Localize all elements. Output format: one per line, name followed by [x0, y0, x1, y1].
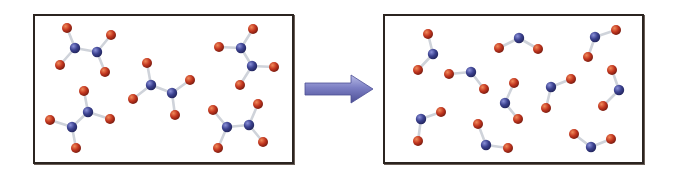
no2-molecule [598, 65, 624, 111]
oxygen-atom [569, 129, 579, 139]
oxygen-atom [473, 119, 483, 129]
oxygen-atom [436, 107, 446, 117]
oxygen-atom [55, 60, 65, 70]
oxygen-atom [253, 99, 263, 109]
nitrogen-atom [83, 107, 93, 117]
oxygen-atom [79, 86, 89, 96]
oxygen-atom [598, 101, 608, 111]
oxygen-atom [71, 143, 81, 153]
oxygen-atom [258, 137, 268, 147]
oxygen-atom [235, 80, 245, 90]
nitrogen-atom [244, 120, 254, 130]
oxygen-atom [541, 103, 551, 113]
oxygen-atom [269, 62, 279, 72]
oxygen-atom [208, 105, 218, 115]
nitrogen-atom [428, 49, 438, 59]
oxygen-atom [105, 114, 115, 124]
oxygen-atom [213, 143, 223, 153]
no2-molecule [413, 29, 438, 75]
oxygen-atom [170, 110, 180, 120]
n2o4-molecules [45, 23, 279, 153]
oxygen-atom [423, 29, 433, 39]
n2o4-molecule [214, 24, 279, 90]
nitrogen-atom [222, 122, 232, 132]
oxygen-atom [128, 94, 138, 104]
nitrogen-atom [247, 61, 257, 71]
no2-molecule [413, 107, 446, 146]
oxygen-atom [106, 30, 116, 40]
oxygen-atom [214, 42, 224, 52]
oxygen-atom [509, 78, 519, 88]
oxygen-atom [185, 75, 195, 85]
nitrogen-atom [500, 98, 510, 108]
oxygen-atom [142, 58, 152, 68]
no2-molecule [473, 119, 513, 153]
no2-molecule [444, 67, 489, 94]
reaction-diagram [0, 0, 677, 173]
nitrogen-atom [614, 85, 624, 95]
nitrogen-atom [514, 33, 524, 43]
no2-molecule [500, 78, 523, 124]
no2-molecule [583, 25, 621, 62]
oxygen-atom [513, 114, 523, 124]
no2-molecule [541, 74, 576, 113]
oxygen-atom [566, 74, 576, 84]
n2o4-molecule [128, 58, 195, 120]
oxygen-atom [503, 143, 513, 153]
oxygen-atom [45, 115, 55, 125]
nitrogen-atom [546, 82, 556, 92]
oxygen-atom [606, 134, 616, 144]
n2o4-molecule [55, 23, 116, 77]
oxygen-atom [100, 67, 110, 77]
nitrogen-atom [70, 43, 80, 53]
n2o4-molecule [208, 99, 268, 153]
oxygen-atom [479, 84, 489, 94]
molecule-canvas [0, 0, 677, 173]
oxygen-atom [413, 136, 423, 146]
oxygen-atom [583, 52, 593, 62]
oxygen-atom [494, 43, 504, 53]
oxygen-atom [607, 65, 617, 75]
nitrogen-atom [466, 67, 476, 77]
oxygen-atom [62, 23, 72, 33]
nitrogen-atom [590, 32, 600, 42]
nitrogen-atom [481, 140, 491, 150]
no2-molecule [494, 33, 543, 54]
nitrogen-atom [236, 43, 246, 53]
oxygen-atom [413, 65, 423, 75]
nitrogen-atom [416, 114, 426, 124]
oxygen-atom [533, 44, 543, 54]
oxygen-atom [248, 24, 258, 34]
oxygen-atom [611, 25, 621, 35]
nitrogen-atom [586, 142, 596, 152]
nitrogen-atom [146, 80, 156, 90]
nitrogen-atom [67, 122, 77, 132]
nitrogen-atom [92, 47, 102, 57]
nitrogen-atom [167, 88, 177, 98]
oxygen-atom [444, 69, 454, 79]
no2-molecules [413, 25, 624, 153]
n2o4-molecule [45, 86, 115, 153]
no2-molecule [569, 129, 616, 152]
right-arrow-icon [305, 75, 373, 103]
